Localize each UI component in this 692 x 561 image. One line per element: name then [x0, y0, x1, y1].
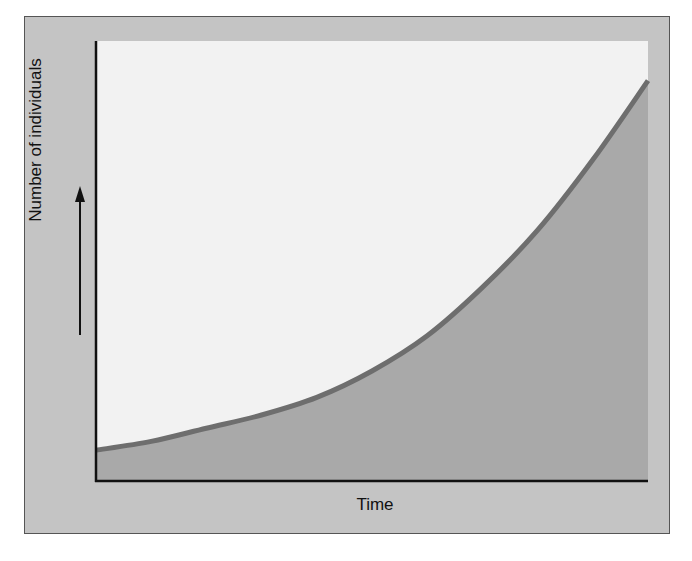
up-arrow-icon — [75, 186, 85, 202]
y-axis-label: Number of individuals — [26, 20, 50, 260]
x-axis-label: Time — [320, 495, 430, 515]
chart-plot — [0, 0, 692, 561]
